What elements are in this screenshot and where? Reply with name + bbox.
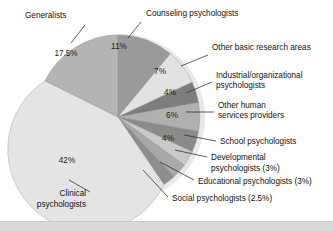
leader-line-generalists — [71, 25, 85, 43]
callout-label-other-human-services-line1: Other human — [218, 101, 266, 110]
callout-label-school-psychologists: School psychologists — [220, 137, 296, 146]
callout-label-clinical-line2: psychologists — [37, 200, 86, 209]
callout-label-clinical-line1: Clinical — [60, 189, 87, 198]
callout-label-educational-psychologists: Educational psychologists (3%) — [198, 177, 312, 186]
callout-label-other-basic-research-areas: Other basic research areas — [212, 43, 311, 52]
pie-value-school: 4% — [162, 134, 174, 143]
callout-label-industrial-organizational-line2: psychologists — [216, 81, 265, 90]
callout-label-generalists: Generalists — [25, 11, 66, 20]
callout-label-developmental-line1: Developmental — [211, 153, 266, 162]
callout-label-social-psychologists: Social psychologists (2.5%) — [172, 194, 272, 203]
callout-label-other-human-services-line2: services providers — [218, 111, 284, 120]
pie-chart-figure: 11% 17.5% 7% 4% 6% 4% 42% Counseling psy… — [0, 0, 333, 231]
callout-label-counseling-psychologists: Counseling psychologists — [146, 9, 238, 18]
callout-label-developmental-line2: psychologists (3%) — [211, 164, 280, 173]
footer-bar — [0, 221, 333, 231]
pie-chart-svg: 11% 17.5% 7% 4% 6% 4% 42% Counseling psy… — [0, 0, 333, 231]
pie-value-other-human: 6% — [166, 111, 178, 120]
pie-value-clinical: 42% — [59, 156, 75, 165]
callout-label-industrial-organizational-line1: Industrial/organizational — [216, 71, 303, 80]
pie-value-industrial: 4% — [164, 88, 176, 97]
pie-value-generalists: 17.5% — [54, 49, 77, 58]
leader-line-other-basic-research — [181, 55, 208, 66]
pie-value-other-basic-research: 7% — [154, 67, 166, 76]
pie-value-counseling: 11% — [111, 42, 127, 51]
